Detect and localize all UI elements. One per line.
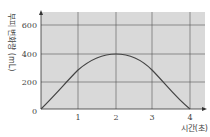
y-tick-label: 600 [22, 21, 37, 30]
y-tick-label: 400 [22, 50, 37, 59]
origin-label: 0 [32, 107, 37, 116]
line-chart: 600 400 200 0 1 2 3 4 시간(초) 부피 변화량 (mL) [0, 0, 210, 137]
x-tick-label: 2 [113, 113, 118, 122]
x-tick-label: 4 [187, 113, 192, 122]
y-tick-label: 200 [22, 78, 37, 87]
plot-area [41, 12, 205, 109]
y-axis-title: 부피 변화량 (mL) [7, 13, 17, 72]
x-tick-label: 1 [75, 113, 80, 122]
x-tick-label: 3 [149, 113, 154, 122]
x-axis-title: 시간(초) [181, 123, 208, 133]
